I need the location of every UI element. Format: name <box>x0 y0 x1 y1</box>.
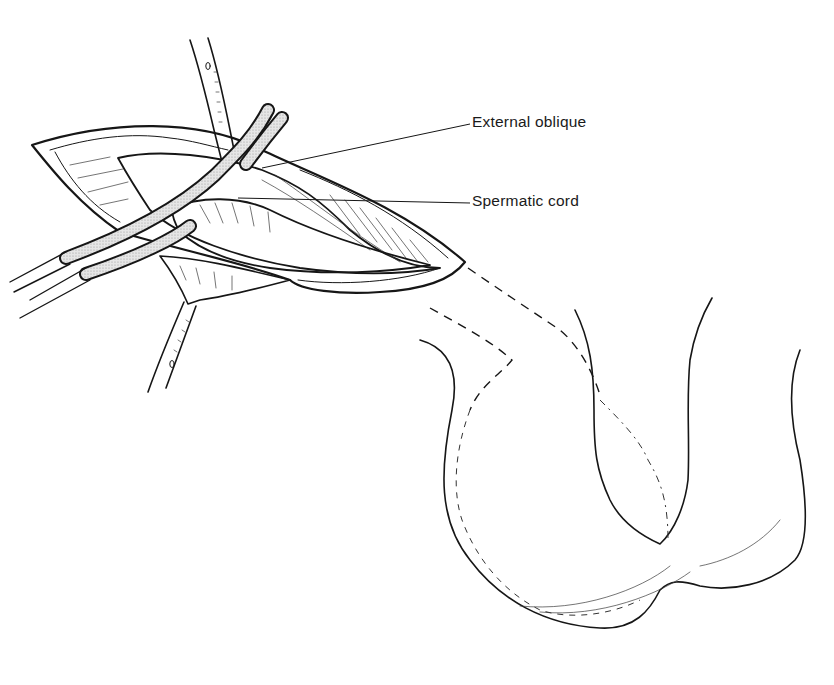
label-spermatic-cord: Spermatic cord <box>472 192 579 210</box>
leader-line-external-oblique <box>262 124 470 168</box>
surgical-illustration: External oblique Spermatic cord <box>0 0 834 685</box>
upper-retractor <box>190 38 236 162</box>
cord-sling-tubes <box>10 110 282 318</box>
label-external-oblique: External oblique <box>472 113 586 131</box>
illustration-canvas <box>0 0 834 685</box>
dashed-hidden-contours <box>430 268 780 615</box>
leader-line-spermatic-cord <box>238 198 470 203</box>
scrotal-sac-outline <box>420 298 805 628</box>
lower-retractor <box>148 302 196 392</box>
